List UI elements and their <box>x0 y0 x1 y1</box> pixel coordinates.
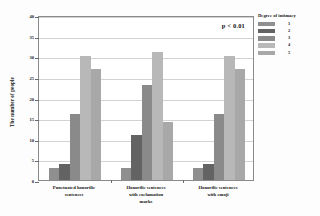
x-axis-category-label: Honorific sentenceswith emoji <box>178 184 258 198</box>
chart-figure: The number of people 0510152025303540 p … <box>0 0 320 216</box>
legend-swatch <box>258 29 275 33</box>
x-axis-category-label-line: sentences <box>34 191 114 198</box>
bar <box>49 168 60 180</box>
y-axis-tick-label: 20 <box>12 98 34 103</box>
bar <box>91 69 102 180</box>
legend-swatch <box>258 36 275 40</box>
bar <box>193 168 204 180</box>
legend-item[interactable]: 3 <box>258 35 316 42</box>
y-axis-tick-label: 30 <box>12 56 34 61</box>
legend-label: 1 <box>288 22 290 26</box>
legend-label: 3 <box>288 36 290 40</box>
plot-area: 0510152025303540 p < 0.01 <box>38 16 254 181</box>
x-axis-category-label-line: marks <box>106 198 186 205</box>
legend-swatch <box>258 43 275 47</box>
legend-items: 12345 <box>258 21 316 57</box>
y-axis-tick-label: 35 <box>12 36 34 41</box>
legend-label: 2 <box>288 29 290 33</box>
y-axis-tick-label: 25 <box>12 77 34 82</box>
bar <box>59 164 70 181</box>
x-axis-category-label-line: with exclamation <box>106 191 186 198</box>
bar <box>70 114 81 180</box>
y-axis-tick <box>35 182 39 183</box>
legend-title: Degree of intimacy <box>258 13 316 18</box>
x-axis-tick <box>183 180 184 183</box>
legend-item[interactable]: 5 <box>258 49 316 56</box>
legend-label: 4 <box>288 43 290 47</box>
bar <box>235 69 246 180</box>
y-axis-tick-label: 15 <box>12 118 34 123</box>
x-axis-category-label: Punctuated honorificsentences <box>34 184 114 198</box>
bar <box>214 114 225 180</box>
legend-swatch <box>258 51 275 55</box>
bar-series-layer <box>39 17 253 180</box>
y-axis-tick-label: 5 <box>12 159 34 164</box>
y-axis-tick-label: 0 <box>12 180 34 185</box>
x-axis-category-label-line: with emoji <box>178 191 258 198</box>
y-axis-tick-label: 10 <box>12 139 34 144</box>
legend-item[interactable]: 1 <box>258 21 316 28</box>
legend: Degree of intimacy 12345 <box>258 13 316 56</box>
x-axis-category-label-line: Punctuated honorific <box>34 184 114 191</box>
bar <box>121 168 132 180</box>
x-axis-tick <box>111 180 112 183</box>
x-axis-category-label-line: Honorific sentences <box>178 184 258 191</box>
legend-item[interactable]: 2 <box>258 28 316 35</box>
legend-item[interactable]: 4 <box>258 42 316 49</box>
x-axis-category-label-line: Honorific sentences <box>106 184 186 191</box>
bar <box>152 52 163 180</box>
bar <box>163 122 174 180</box>
x-axis-category-label: Honorific sentenceswith exclamationmarks <box>106 184 186 205</box>
bar <box>203 164 214 181</box>
bar <box>224 56 235 180</box>
y-axis-tick-label: 40 <box>12 15 34 20</box>
legend-label: 5 <box>288 51 290 55</box>
p-value-annotation: p < 0.01 <box>222 22 245 29</box>
legend-swatch <box>258 22 275 26</box>
bar <box>131 135 142 180</box>
bar <box>80 56 91 180</box>
bar <box>142 85 153 180</box>
